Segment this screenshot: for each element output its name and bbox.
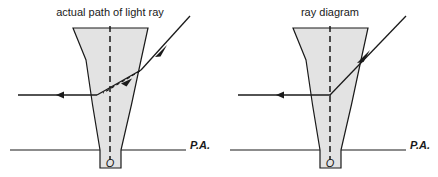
outgoing-ray-left bbox=[141, 16, 190, 70]
outgoing-ray-arrow-icon-left bbox=[155, 45, 167, 57]
panel-actual-path: actual path of light ray O P.A. bbox=[10, 6, 210, 169]
principal-axis-label-right: P.A. bbox=[410, 139, 430, 151]
incoming-ray-arrow-icon-left bbox=[56, 92, 64, 99]
panel-title-ray-diagram: ray diagram bbox=[301, 6, 359, 18]
lens-diagram-svg: actual path of light ray O P.A. bbox=[0, 0, 438, 177]
principal-axis-label-left: P.A. bbox=[190, 139, 210, 151]
optical-center-label-left: O bbox=[106, 157, 115, 169]
physics-lens-figure: actual path of light ray O P.A. bbox=[0, 0, 438, 177]
incoming-ray-arrow-icon-right bbox=[276, 92, 284, 99]
panel-ray-diagram: ray diagram O P.A. bbox=[230, 6, 430, 169]
optical-center-label-right: O bbox=[326, 157, 335, 169]
panel-title-actual-path: actual path of light ray bbox=[56, 6, 164, 18]
